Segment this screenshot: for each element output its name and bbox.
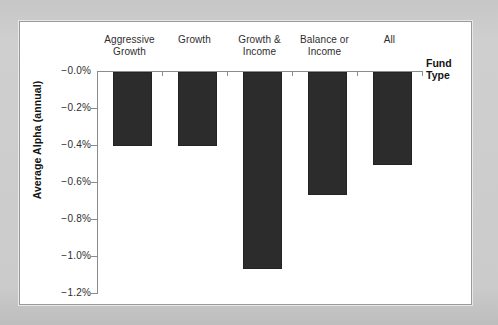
y-tick-group-1: −0.2% xyxy=(20,102,91,114)
y-tick-mark-3 xyxy=(91,182,97,183)
x-category-label-balance-income: Balance or Income xyxy=(292,34,357,58)
y-tick-group-0: −0.0% xyxy=(20,65,91,77)
x-category-label-all: All xyxy=(357,34,422,46)
y-tick-group-4: −0.8% xyxy=(20,213,91,225)
y-tick-label-2: −0.4% xyxy=(25,139,91,150)
y-tick-label-6: −1.2% xyxy=(25,287,91,298)
x-tick-mark-4 xyxy=(422,71,423,76)
x-category-label-growth-income: Growth & Income xyxy=(227,34,292,58)
y-tick-group-6: −1.2% xyxy=(20,287,91,299)
y-tick-mark-5 xyxy=(91,256,97,257)
y-tick-label-0: −0.0% xyxy=(25,65,91,76)
y-tick-label-1: −0.2% xyxy=(25,102,91,113)
bar-all xyxy=(373,72,412,165)
x-tick-mark-1 xyxy=(227,71,228,76)
x-category-label-aggressive-growth: Aggressive Growth xyxy=(97,34,162,58)
x-tick-mark-2 xyxy=(292,71,293,76)
plot-area: Average Alpha (annual) −0.0% −0.2% −0.4%… xyxy=(20,22,473,306)
bar-growth xyxy=(178,72,217,146)
y-tick-group-2: −0.4% xyxy=(20,139,91,151)
bar-growth-income xyxy=(243,72,282,269)
figure-container: Average Alpha (annual) −0.0% −0.2% −0.4%… xyxy=(0,0,498,325)
x-category-label-growth: Growth xyxy=(162,34,227,46)
y-tick-mark-1 xyxy=(91,108,97,109)
bar-aggressive-growth xyxy=(113,72,152,146)
y-tick-mark-4 xyxy=(91,219,97,220)
y-axis-line xyxy=(97,71,98,294)
y-tick-mark-6 xyxy=(91,293,97,294)
chart-panel: Average Alpha (annual) −0.0% −0.2% −0.4%… xyxy=(19,21,472,305)
y-tick-mark-2 xyxy=(91,145,97,146)
y-tick-label-4: −0.8% xyxy=(25,213,91,224)
y-tick-group-5: −1.0% xyxy=(20,250,91,262)
bar-balance-income xyxy=(308,72,347,195)
x-tick-mark-0 xyxy=(162,71,163,76)
x-axis-title: Fund Type xyxy=(426,57,472,81)
y-tick-group-3: −0.6% xyxy=(20,176,91,188)
x-tick-mark-3 xyxy=(357,71,358,76)
y-tick-label-3: −0.6% xyxy=(25,176,91,187)
y-tick-label-5: −1.0% xyxy=(25,250,91,261)
